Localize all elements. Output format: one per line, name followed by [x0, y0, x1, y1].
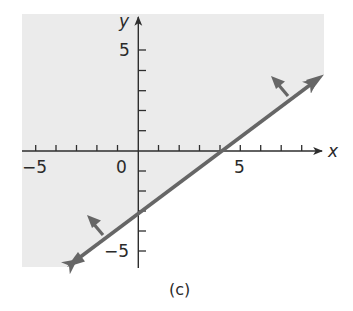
- figure-caption: (c): [169, 280, 190, 299]
- x-axis-label: x: [327, 141, 339, 161]
- y-tick-label-neg5: −5: [104, 241, 129, 261]
- x-tick-label-0: 0: [116, 157, 127, 177]
- y-tick-label-5: 5: [119, 40, 130, 60]
- inequality-graph: y x −5 0 5 5 −5 (c): [0, 0, 353, 311]
- x-tick-label-neg5: −5: [22, 157, 47, 177]
- y-axis-label: y: [118, 11, 130, 31]
- shaded-region: [22, 14, 324, 267]
- caption-text: (c): [169, 280, 190, 299]
- x-tick-label-5: 5: [234, 157, 245, 177]
